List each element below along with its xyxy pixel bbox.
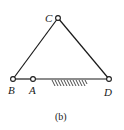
label-d: D — [103, 86, 112, 98]
joint-a-icon — [31, 77, 36, 82]
linkage-diagram: C B A D (b) — [0, 0, 124, 130]
figure-caption: (b) — [55, 111, 67, 123]
joint-d-icon — [107, 77, 112, 82]
label-b: B — [8, 84, 15, 96]
ground-hatching — [52, 80, 87, 86]
label-c: C — [45, 12, 53, 24]
link-bc — [13, 18, 58, 79]
joint-c-icon — [56, 16, 61, 21]
link-cd — [58, 18, 109, 79]
label-a: A — [28, 84, 36, 96]
joint-b-icon — [11, 77, 16, 82]
